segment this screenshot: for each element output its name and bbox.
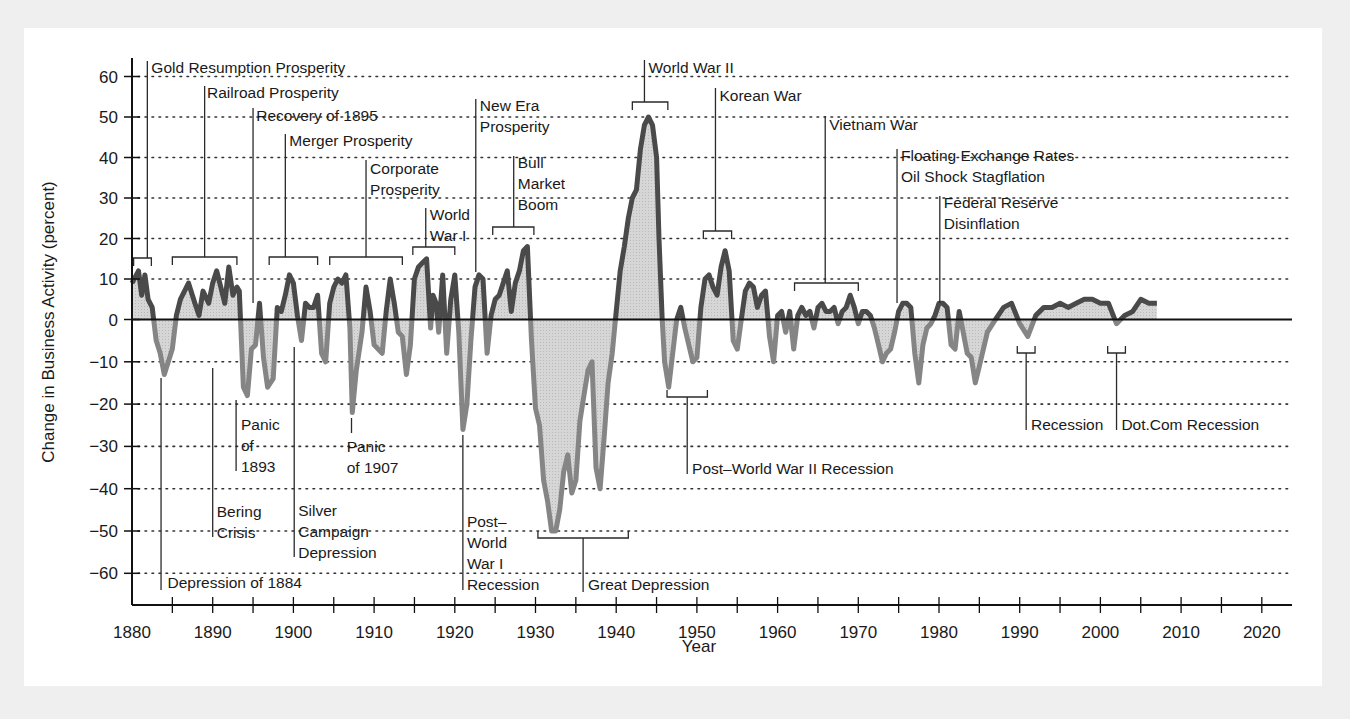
- x-tick-label: 1960: [759, 623, 797, 642]
- y-tick-label: 50: [99, 108, 118, 127]
- annotation-bracket: [413, 247, 455, 255]
- annotation-label: Post–World War II Recession: [692, 460, 894, 477]
- x-tick-label: 2000: [1081, 623, 1119, 642]
- x-tick-label: 2010: [1162, 623, 1200, 642]
- annotation-bracket: [269, 257, 317, 265]
- annotation-label: WorldWar I: [430, 206, 470, 244]
- x-tick-label: 1980: [920, 623, 958, 642]
- y-tick-label: −50: [89, 522, 118, 541]
- y-tick-label: 20: [99, 230, 118, 249]
- annotation-label: Great Depression: [588, 576, 709, 593]
- annotation-label: Panicof 1907: [347, 438, 399, 476]
- annotation-label: SilverCampaignDepression: [298, 502, 376, 561]
- x-tick-label: 1880: [113, 623, 151, 642]
- y-tick-label: −40: [89, 480, 118, 499]
- annotation-label: Korean War: [719, 87, 801, 104]
- annotation-label: World War II: [648, 59, 733, 76]
- annotation-bracket: [795, 283, 859, 291]
- annotation-label: New EraProsperity: [480, 97, 550, 135]
- annotation-bracket: [632, 102, 668, 110]
- x-axis-title: Year: [682, 637, 717, 656]
- annotation-label: Floating Exchange RatesOil Shock Stagfla…: [901, 147, 1074, 185]
- y-tick-label: −10: [89, 353, 118, 372]
- annotation-bracket: [330, 257, 403, 265]
- annotation-bracket: [1108, 346, 1126, 353]
- chart-panel: 6050403020100−10−20−30−40−50−60188018901…: [24, 28, 1322, 686]
- y-tick-label: 30: [99, 189, 118, 208]
- annotation-label: Federal ReserveDisinflation: [944, 194, 1059, 232]
- y-tick-label: −60: [89, 564, 118, 583]
- annotation-label: Depression of 1884: [168, 574, 303, 591]
- y-tick-label: 40: [99, 149, 118, 168]
- annotation-label: BullMarketBoom: [518, 154, 566, 213]
- x-tick-label: 2020: [1243, 623, 1281, 642]
- annotation-label: Merger Prosperity: [289, 132, 412, 149]
- x-tick-label: 1910: [355, 623, 393, 642]
- y-tick-label: −30: [89, 437, 118, 456]
- y-axis-title: Change in Business Activity (percent): [39, 181, 58, 463]
- x-tick-label: 1990: [1001, 623, 1039, 642]
- y-tick-label: 60: [99, 68, 118, 87]
- annotation-bracket: [1017, 346, 1035, 353]
- x-tick-label: 1920: [436, 623, 474, 642]
- annotation-label: Vietnam War: [829, 116, 918, 133]
- x-tick-label: 1890: [194, 623, 232, 642]
- x-tick-label: 1940: [597, 623, 635, 642]
- annotation-label: Recession: [1031, 416, 1103, 433]
- x-tick-label: 1900: [274, 623, 312, 642]
- annotation-bracket: [493, 227, 534, 235]
- x-tick-label: 1930: [517, 623, 555, 642]
- y-tick-label: 10: [99, 270, 118, 289]
- annotation-label: Dot.Com Recession: [1121, 416, 1259, 433]
- annotation-bracket: [134, 258, 152, 266]
- y-tick-label: −20: [89, 395, 118, 414]
- annotation-label: Panicof1893: [241, 416, 280, 475]
- annotation-label: BeringCrisis: [217, 503, 262, 541]
- business-activity-chart: 6050403020100−10−20−30−40−50−60188018901…: [24, 28, 1322, 686]
- annotation-label: Railroad Prosperity: [207, 84, 339, 101]
- y-tick-label: 0: [109, 311, 118, 330]
- annotation-label: Gold Resumption Prosperity: [151, 59, 345, 76]
- x-tick-label: 1970: [839, 623, 877, 642]
- annotation-bracket: [172, 257, 237, 265]
- annotation-bracket: [667, 390, 707, 397]
- annotation-label: Recovery of 1895: [256, 107, 378, 124]
- annotation-label: CorporateProsperity: [370, 160, 440, 198]
- annotation-label: Post–WorldWar IRecession: [467, 513, 539, 593]
